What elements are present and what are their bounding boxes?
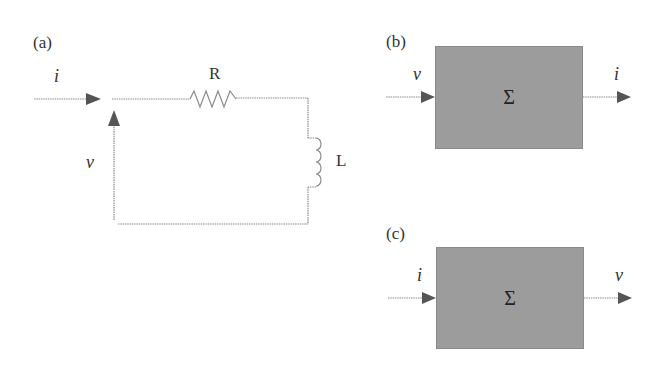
- output-arrow-icon-c: [618, 292, 632, 304]
- inductor-label: L: [336, 151, 346, 171]
- current-arrow-icon: [86, 93, 101, 105]
- input-label-c: i: [417, 265, 422, 286]
- system-block-c: Σ: [436, 247, 584, 349]
- resistor-label: R: [209, 64, 220, 84]
- voltage-arrow-icon: [108, 110, 120, 126]
- output-label-b: i: [614, 64, 619, 85]
- panel-b-label: (b): [386, 32, 406, 52]
- rl-circuit: [34, 91, 321, 224]
- sigma-symbol-c: Σ: [504, 287, 516, 310]
- output-arrow-icon-b: [617, 91, 631, 103]
- input-arrow-icon-b: [421, 91, 435, 103]
- current-label: i: [54, 66, 59, 87]
- panel-c-label: (c): [386, 224, 405, 244]
- input-label-b: v: [413, 64, 421, 85]
- voltage-label: v: [86, 152, 94, 173]
- output-label-c: v: [615, 265, 623, 286]
- system-block-b: Σ: [435, 46, 583, 149]
- input-arrow-icon-c: [422, 292, 436, 304]
- sigma-symbol-b: Σ: [503, 86, 515, 109]
- panel-a-label: (a): [33, 33, 52, 53]
